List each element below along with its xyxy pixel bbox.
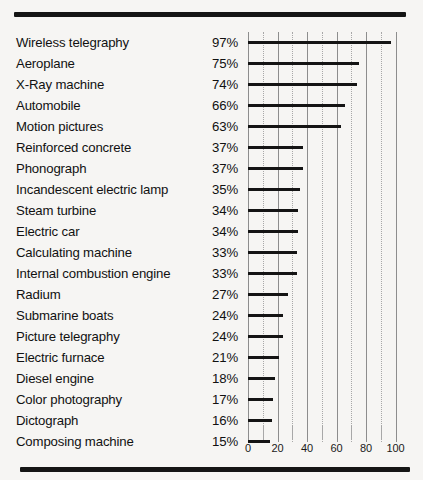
bar [248,209,298,212]
category-label: Motion pictures [16,116,188,137]
bar-row [248,242,400,263]
bar-row [248,284,400,305]
bar-row [248,221,400,242]
x-axis-tick-labels: 020406080100 [248,441,400,457]
x-axis-label: 60 [330,441,342,455]
value-label: 37% [188,137,238,158]
x-axis-label: 20 [271,441,283,455]
bar-row [248,32,400,53]
tick-mark-major [307,425,309,439]
plot-area [248,32,400,442]
category-label: Wireless telegraphy [16,32,188,53]
bottom-rule-divider [20,467,410,472]
bar [248,272,297,275]
category-label: Electric car [16,221,188,242]
category-label: Electric furnace [16,347,188,368]
bar [248,356,279,359]
value-label: 17% [188,389,238,410]
bar-row [248,137,400,158]
category-label: Reinforced concrete [16,137,188,158]
value-label: 24% [188,305,238,326]
bar-row [248,95,400,116]
value-label: 33% [188,242,238,263]
value-label: 63% [188,116,238,137]
bar [248,398,273,401]
x-axis-label: 80 [360,441,372,455]
bar [248,41,391,44]
value-label: 66% [188,95,238,116]
bar [248,125,341,128]
bar [248,188,300,191]
bar [248,293,288,296]
bar-row [248,74,400,95]
x-axis-tick-marks [248,425,400,439]
tick-mark-minor [292,425,294,439]
bar [248,419,272,422]
category-label: Picture telegraphy [16,326,188,347]
value-label: 21% [188,347,238,368]
bar-row [248,368,400,389]
category-label: Submarine boats [16,305,188,326]
bar [248,251,297,254]
category-label: Color photography [16,389,188,410]
value-label: 27% [188,284,238,305]
category-label: Diesel engine [16,368,188,389]
category-label: Dictograph [16,410,188,431]
x-axis-label: 100 [386,441,404,455]
tick-mark-major [366,425,368,439]
bar-row [248,158,400,179]
value-label: 34% [188,221,238,242]
bar-row [248,179,400,200]
bar [248,62,359,65]
category-label: Steam turbine [16,200,188,221]
bar-row [248,305,400,326]
category-label: Calculating machine [16,242,188,263]
value-label: 24% [188,326,238,347]
bar-row [248,389,400,410]
category-label: Radium [16,284,188,305]
value-label: 74% [188,74,238,95]
bar-chart-figure: Wireless telegraphyAeroplaneX-Ray machin… [0,0,423,480]
value-label: 16% [188,410,238,431]
bar [248,314,283,317]
value-label: 97% [188,32,238,53]
bar-row [248,200,400,221]
bar [248,335,283,338]
bar [248,104,345,107]
bar-row [248,326,400,347]
value-label: 75% [188,53,238,74]
category-label: Automobile [16,95,188,116]
category-label: X-Ray machine [16,74,188,95]
x-axis-label: 0 [245,441,251,455]
category-label: Composing machine [16,431,188,452]
tick-mark-major [396,425,398,439]
bar [248,83,357,86]
bar-row [248,263,400,284]
bar-row [248,116,400,137]
value-label-column: 97%75%74%66%63%37%37%35%34%34%33%33%27%2… [188,32,238,452]
category-label-column: Wireless telegraphyAeroplaneX-Ray machin… [16,32,188,452]
bar-row [248,53,400,74]
tick-mark-minor [381,425,383,439]
tick-mark-major [337,425,339,439]
bar [248,230,298,233]
top-rule-divider [14,12,406,17]
value-label: 37% [188,158,238,179]
value-label: 33% [188,263,238,284]
bar [248,167,303,170]
category-label: Incandescent electric lamp [16,179,188,200]
category-label: Aeroplane [16,53,188,74]
tick-mark-minor [263,425,265,439]
tick-mark-major [278,425,280,439]
category-label: Internal combustion engine [16,263,188,284]
x-axis-label: 40 [301,441,313,455]
tick-mark-major [248,425,250,439]
value-label: 18% [188,368,238,389]
category-label: Phonograph [16,158,188,179]
tick-mark-minor [322,425,324,439]
bar [248,146,303,149]
value-label: 35% [188,179,238,200]
bar [248,377,275,380]
value-label: 15% [188,431,238,452]
tick-mark-minor [351,425,353,439]
